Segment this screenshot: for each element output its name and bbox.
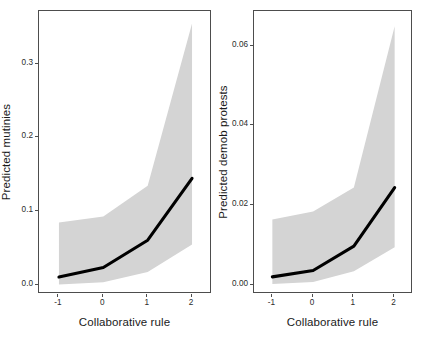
- plot-svg-right: [254, 11, 413, 294]
- x-tickmark-left-1: [102, 294, 103, 297]
- figure-two-panel-predicted-outcomes: Predicted mutinies Collaborative rule 0.…: [0, 0, 433, 338]
- y-tickmark-left-2: [35, 136, 38, 137]
- x-tickmark-left-3: [191, 294, 192, 297]
- y-axis-title-left: Predicted mutinies: [0, 103, 12, 199]
- x-tick-label-right-2: 1: [338, 299, 368, 307]
- y-tick-label-right-3: 0.06: [222, 41, 248, 49]
- x-tick-label-right-0: -1: [256, 299, 286, 307]
- confidence-band-left: [59, 24, 192, 285]
- x-tickmark-left-2: [146, 294, 147, 297]
- x-tickmark-right-3: [393, 294, 394, 297]
- y-tick-label-left-1: 0.1: [7, 206, 33, 214]
- y-tick-label-left-3: 0.3: [7, 59, 33, 67]
- x-axis-title-left: Collaborative rule: [38, 316, 211, 328]
- confidence-band-right: [272, 26, 394, 284]
- y-tick-label-right-0: 0.00: [222, 280, 248, 288]
- x-axis-title-right: Collaborative rule: [253, 316, 412, 328]
- y-tickmark-right-3: [250, 45, 253, 46]
- y-tickmark-right-1: [250, 204, 253, 205]
- panel-predicted-mutinies: Predicted mutinies Collaborative rule 0.…: [0, 0, 217, 338]
- x-tickmark-right-1: [312, 294, 313, 297]
- plot-area-right: [253, 10, 412, 293]
- y-tickmark-left-0: [35, 284, 38, 285]
- x-tickmark-right-2: [352, 294, 353, 297]
- y-tick-label-right-2: 0.04: [222, 120, 248, 128]
- y-tick-label-left-2: 0.2: [7, 132, 33, 140]
- x-tick-label-left-1: 0: [87, 299, 117, 307]
- y-tick-label-right-1: 0.02: [222, 200, 248, 208]
- y-tickmark-left-3: [35, 63, 38, 64]
- panel-predicted-demob-protests: Predicted demob protests Collaborative r…: [217, 0, 433, 338]
- x-tickmark-left-0: [57, 294, 58, 297]
- y-tickmark-left-1: [35, 210, 38, 211]
- plot-area-left: [38, 10, 211, 293]
- x-tick-label-left-3: 2: [176, 299, 206, 307]
- y-axis-title-right: Predicted demob protests: [217, 85, 229, 218]
- y-tickmark-right-2: [250, 124, 253, 125]
- y-tick-label-left-0: 0.0: [7, 280, 33, 288]
- x-tick-label-right-3: 2: [379, 299, 409, 307]
- y-tickmark-right-0: [250, 284, 253, 285]
- x-tickmark-right-0: [271, 294, 272, 297]
- x-tick-label-left-2: 1: [132, 299, 162, 307]
- x-tick-label-right-1: 0: [297, 299, 327, 307]
- x-tick-label-left-0: -1: [43, 299, 73, 307]
- plot-svg-left: [39, 11, 212, 294]
